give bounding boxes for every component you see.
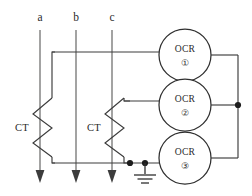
phase-label-a: a	[37, 11, 42, 23]
ct-label-c: CT	[87, 122, 101, 133]
current-transformer-a	[33, 52, 55, 163]
ct-a-bottom-lead	[52, 157, 55, 163]
relay-ocr-1-label: OCR	[175, 43, 196, 54]
relay-ocr-3-body[interactable]	[159, 132, 211, 184]
phase-line-c	[108, 30, 117, 183]
phase-label-c: c	[109, 11, 114, 23]
ct-label-a: CT	[15, 122, 29, 133]
relay-ocr-2[interactable]: OCR ②	[159, 79, 211, 131]
junction-dot-ct-c-return	[127, 160, 133, 166]
common-return-bus	[211, 55, 238, 158]
phase-c-current-arrow	[108, 170, 117, 183]
circuit-diagram: OCR ① OCR ② OCR ③	[0, 0, 252, 196]
relay-ocr-1[interactable]: OCR ①	[159, 29, 211, 81]
current-transformer-c	[105, 98, 130, 163]
relay-ocr-2-label: OCR	[175, 93, 196, 104]
relay-ocr-3[interactable]: OCR ③	[159, 132, 211, 184]
relay-ocr-1-number: ①	[181, 58, 189, 68]
phase-label-b: b	[73, 11, 79, 23]
relay-ocr-3-label: OCR	[175, 146, 196, 157]
ct-a-coil-symbol	[33, 98, 52, 157]
ct-c-coil-symbol	[105, 98, 124, 157]
phase-line-a	[36, 30, 45, 183]
phase-a-current-arrow	[36, 170, 45, 183]
phase-b-current-arrow	[72, 170, 81, 183]
phase-line-b	[72, 30, 81, 183]
relay-ocr-2-body[interactable]	[159, 79, 211, 131]
ct-a-top-lead	[52, 52, 55, 98]
relay-ocr-3-number: ③	[181, 161, 189, 171]
relay-ocr-2-number: ②	[181, 108, 189, 118]
relay-ocr-1-body[interactable]	[159, 29, 211, 81]
schematic-canvas: OCR ① OCR ② OCR ③	[0, 0, 252, 196]
junction-dot-bus	[235, 102, 241, 108]
earth-ground-symbol	[134, 163, 156, 183]
